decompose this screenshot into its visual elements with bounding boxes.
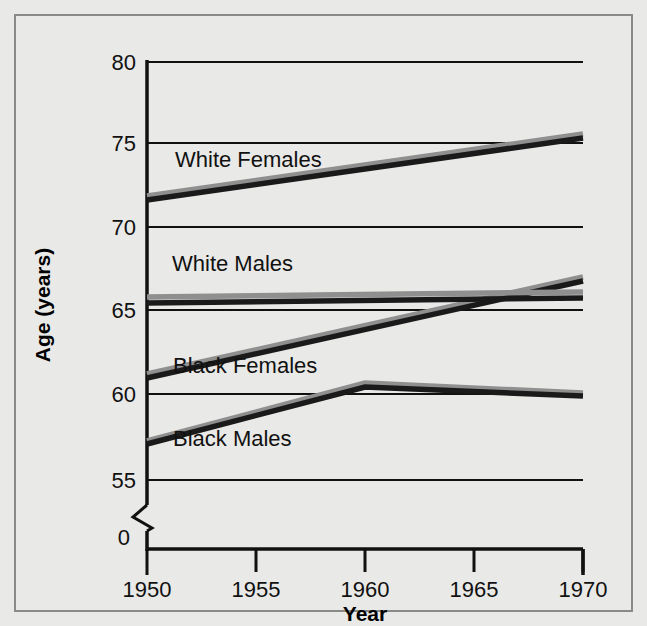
ytick-label-80: 80 [112,50,136,75]
line-chart: 80 75 70 65 60 55 0 1950 1955 1960 1965 … [0,0,647,626]
xtick-label-1965: 1965 [450,577,499,602]
series-label-white-males: White Males [172,251,293,276]
x-tick-labels: 1950 1955 1960 1965 1970 [123,577,608,602]
y-axis-title: Age (years) [31,248,54,362]
ytick-label-75: 75 [112,131,136,156]
ytick-label-55: 55 [112,468,136,493]
ytick-label-60: 60 [112,382,136,407]
x-axis-title: Year [343,602,387,625]
xtick-label-1960: 1960 [341,577,390,602]
series-white-males [147,292,583,303]
chart-page: 80 75 70 65 60 55 0 1950 1955 1960 1965 … [0,0,647,626]
ytick-label-70: 70 [112,215,136,240]
ytick-label-0: 0 [118,525,130,550]
xtick-label-1950: 1950 [123,577,172,602]
series-label-white-females: White Females [175,147,322,172]
xtick-label-1955: 1955 [232,577,281,602]
series-label-black-females: Black Females [173,353,317,378]
ytick-label-65: 65 [112,298,136,323]
x-tick-marks [147,549,583,575]
xtick-label-1970: 1970 [559,577,608,602]
series-label-black-males: Black Males [173,426,292,451]
axis-spines [147,60,583,575]
y-tick-labels: 80 75 70 65 60 55 0 [112,50,136,550]
y-axis-break-icon [133,505,152,531]
